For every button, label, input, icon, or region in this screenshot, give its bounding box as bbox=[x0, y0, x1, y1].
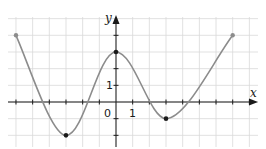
extremum-marker bbox=[114, 50, 119, 55]
y-unit-label: 1 bbox=[106, 79, 113, 92]
origin-label: 0 bbox=[104, 107, 111, 120]
x-axis-label: x bbox=[250, 86, 257, 100]
y-axis bbox=[113, 15, 120, 147]
endpoint-marker bbox=[230, 33, 234, 37]
extremum-marker bbox=[64, 133, 69, 138]
y-axis-label: y bbox=[104, 11, 112, 25]
grid bbox=[8, 17, 258, 147]
endpoint-marker bbox=[14, 33, 18, 37]
x-unit-label: 1 bbox=[129, 107, 136, 120]
extremum-marker bbox=[164, 116, 169, 121]
y-axis-arrow-icon bbox=[113, 15, 120, 24]
function-graph: x y 0 1 1 bbox=[0, 0, 266, 149]
